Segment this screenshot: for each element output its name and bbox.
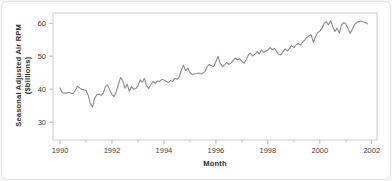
chart-screenshot: { "window": { "background": "#ffffff", "… — [0, 0, 392, 181]
y-tick-label: 40 — [38, 85, 46, 94]
x-tick-label: 2002 — [363, 146, 380, 155]
x-tick-label: 1990 — [52, 146, 69, 155]
x-tick-label: 1994 — [156, 146, 173, 155]
line-chart-plot: 304050601990199219941996199820002002Mont… — [0, 0, 392, 181]
x-tick-label: 1992 — [104, 146, 121, 155]
x-tick-label: 1998 — [260, 146, 277, 155]
data-line — [60, 21, 367, 107]
x-tick-label: 1996 — [208, 146, 225, 155]
y-tick-label: 60 — [38, 19, 46, 28]
x-axis-title: Month — [203, 159, 227, 168]
y-tick-label: 50 — [38, 52, 46, 61]
plot-frame — [53, 13, 377, 140]
y-tick-label: 30 — [38, 118, 46, 127]
x-tick-label: 2000 — [311, 146, 328, 155]
